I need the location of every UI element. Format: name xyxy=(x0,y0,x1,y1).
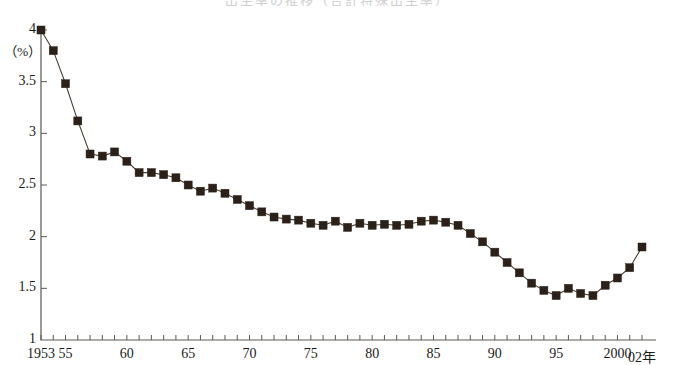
data-point-marker xyxy=(393,221,401,229)
x-axis-ticks xyxy=(41,335,642,340)
data-point-marker xyxy=(613,274,621,282)
y-axis-tick-label: 1 xyxy=(29,331,36,347)
data-point-marker xyxy=(344,223,352,231)
data-point-marker xyxy=(564,284,572,292)
data-point-marker xyxy=(86,150,94,158)
data-point-marker xyxy=(184,181,192,189)
data-point-marker xyxy=(74,117,82,125)
data-point-marker xyxy=(577,290,585,298)
y-axis-tick-label: 2.5 xyxy=(19,176,37,192)
data-point-marker xyxy=(135,169,143,177)
data-point-marker xyxy=(429,216,437,224)
data-point-marker xyxy=(442,218,450,226)
data-point-marker xyxy=(405,220,413,228)
data-point-marker xyxy=(221,189,229,197)
series-markers xyxy=(37,26,646,300)
data-point-marker xyxy=(307,219,315,227)
axes xyxy=(41,26,656,340)
data-point-marker xyxy=(601,281,609,289)
data-point-marker xyxy=(466,230,474,238)
data-point-marker xyxy=(295,216,303,224)
data-point-marker xyxy=(454,221,462,229)
data-point-marker xyxy=(62,80,70,88)
data-point-marker xyxy=(540,286,548,294)
data-point-marker xyxy=(233,195,241,203)
data-point-marker xyxy=(626,264,634,272)
data-point-marker xyxy=(479,238,487,246)
data-point-marker xyxy=(380,220,388,228)
data-point-marker xyxy=(368,221,376,229)
data-point-marker xyxy=(515,269,523,277)
data-point-marker xyxy=(172,174,180,182)
data-point-marker xyxy=(111,148,119,156)
data-point-marker xyxy=(98,152,106,160)
chart-plot-area xyxy=(0,0,674,365)
data-point-marker xyxy=(49,47,57,55)
data-point-marker xyxy=(147,169,155,177)
axis-lines xyxy=(41,26,656,340)
y-axis-tick-label: 4 xyxy=(29,21,36,37)
x-axis-tick-label: 02年 xyxy=(602,346,674,365)
data-point-marker xyxy=(282,215,290,223)
data-point-marker xyxy=(270,213,278,221)
data-point-marker xyxy=(319,221,327,229)
data-point-marker xyxy=(209,184,217,192)
data-point-marker xyxy=(246,202,254,210)
y-axis-tick-label: 1.5 xyxy=(19,279,37,295)
data-point-marker xyxy=(528,279,536,287)
data-point-marker xyxy=(552,292,560,300)
data-point-marker xyxy=(417,217,425,225)
data-point-marker xyxy=(503,259,511,267)
y-axis-ticks xyxy=(41,30,47,288)
series-line xyxy=(41,30,642,296)
data-point-marker xyxy=(589,292,597,300)
chart-container: 出生率の推移（合計特殊出生率） （%） 11.522.533.54 195355… xyxy=(0,0,674,365)
data-point-marker xyxy=(638,243,646,251)
data-point-marker xyxy=(258,208,266,216)
y-axis-tick-label: 2 xyxy=(29,228,36,244)
data-point-marker xyxy=(37,26,45,34)
y-axis-tick-label: 3 xyxy=(29,124,36,140)
data-point-marker xyxy=(331,217,339,225)
data-point-marker xyxy=(196,187,204,195)
data-point-marker xyxy=(123,157,131,165)
y-axis-tick-label: 3.5 xyxy=(19,73,37,89)
data-point-marker xyxy=(356,219,364,227)
data-point-marker xyxy=(491,248,499,256)
data-point-marker xyxy=(160,171,168,179)
